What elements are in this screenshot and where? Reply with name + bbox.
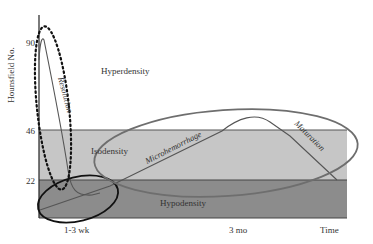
x-label-1-3wk: 1-3 wk [64,225,90,235]
y-tick-46: 46 [26,126,36,136]
hypodensity-label: Hypodensity [160,198,206,208]
x-label-3mo: 3 mo [229,225,248,235]
x-label-time: Time [320,225,339,235]
isodensity-label: Isodensity [91,146,128,156]
y-tick-90: 90 [26,38,36,48]
resolution-label: Resolution [56,75,75,114]
hounsfield-diagram: Hounsfield No. 90 46 22 Hyperdensity Iso… [0,0,373,244]
hyperdensity-label: Hyperdensity [101,66,150,76]
y-tick-22: 22 [26,176,35,186]
y-axis-label: Hounsfield No. [6,47,16,103]
